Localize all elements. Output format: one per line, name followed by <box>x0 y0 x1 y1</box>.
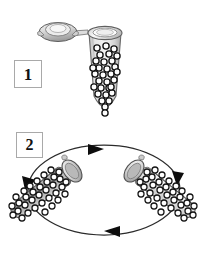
step-label-2: 2 <box>26 137 34 153</box>
bead-cluster-tube-right <box>137 167 197 221</box>
step-label-1: 1 <box>24 66 33 83</box>
step-label-box-1: 1 <box>14 60 42 88</box>
panel-step-2: 2 <box>0 127 210 254</box>
step-label-box-2: 2 <box>16 132 43 158</box>
figure-root: 1 <box>0 0 210 254</box>
panel-step-1: 1 <box>0 0 210 127</box>
tube-cap-open <box>37 23 78 42</box>
